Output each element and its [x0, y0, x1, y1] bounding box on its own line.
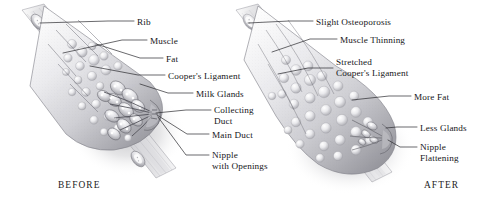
- label-fat: Fat: [166, 54, 178, 65]
- label-collecting-duct: CollectingDuct: [214, 105, 254, 126]
- label-muscle: Muscle: [150, 36, 178, 47]
- label-fat-line-1: Fat: [166, 54, 178, 65]
- label-coopers-ligament-line-1: Cooper's Ligament: [168, 71, 240, 82]
- label-nipple-flattening-line-2: Flattening: [420, 153, 459, 164]
- label-main-duct-line-1: Main Duct: [212, 130, 253, 141]
- label-muscle-thinning: Muscle Thinning: [340, 35, 405, 46]
- label-nipple-openings: Nipplewith Openings: [212, 150, 268, 171]
- after-breast-mass: [244, 6, 396, 174]
- anatomy-illustration: [0, 0, 486, 206]
- caption-before: BEFORE: [58, 180, 101, 190]
- label-nipple-flattening: NippleFlattening: [420, 142, 459, 163]
- label-less-glands: Less Glands: [420, 123, 467, 134]
- label-more-fat-line-1: More Fat: [414, 92, 449, 103]
- anatomy-figure: RibMuscleFatCooper's LigamentMilk Glands…: [0, 0, 486, 206]
- label-nipple-openings-line-2: with Openings: [212, 161, 268, 172]
- label-main-duct: Main Duct: [212, 130, 253, 141]
- label-slight-osteoporosis: Slight Osteoporosis: [316, 17, 391, 28]
- label-muscle-thinning-line-1: Muscle Thinning: [340, 35, 405, 46]
- label-milk-glands: Milk Glands: [196, 89, 244, 100]
- label-rib-line-1: Rib: [137, 17, 151, 28]
- label-nipple-openings-line-1: Nipple: [212, 150, 268, 161]
- label-collecting-duct-line-2: Duct: [214, 116, 254, 127]
- caption-after: AFTER: [424, 180, 459, 190]
- label-milk-glands-line-1: Milk Glands: [196, 89, 244, 100]
- label-more-fat: More Fat: [414, 92, 449, 103]
- label-nipple-flattening-line-1: Nipple: [420, 142, 459, 153]
- label-collecting-duct-line-1: Collecting: [214, 105, 254, 116]
- label-coopers-ligament: Cooper's Ligament: [168, 71, 240, 82]
- label-slight-osteoporosis-line-1: Slight Osteoporosis: [316, 17, 391, 28]
- label-rib: Rib: [137, 17, 151, 28]
- label-less-glands-line-1: Less Glands: [420, 123, 467, 134]
- before-breast-mass: [30, 6, 163, 150]
- label-muscle-line-1: Muscle: [150, 36, 178, 47]
- label-stretched-coopers-line-2: Cooper's Ligament: [336, 68, 408, 79]
- label-stretched-coopers-line-1: Stretched: [336, 57, 408, 68]
- label-stretched-coopers: StretchedCooper's Ligament: [336, 57, 408, 78]
